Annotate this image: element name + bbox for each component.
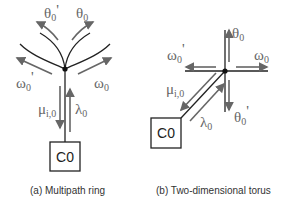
theta-label: θ0 [232, 25, 244, 43]
lambda-label: λ0 [200, 114, 212, 132]
ring-link-lower-right [65, 44, 110, 69]
omega-label: ω0 [254, 47, 269, 65]
ring-node [62, 66, 67, 71]
caption-two-dimensional-torus: (b) Two-dimensional torus [156, 185, 271, 196]
omega-label: ω0 [94, 75, 109, 93]
mu-label: μi,0 [166, 81, 184, 99]
torus-diagram: θ0 θ0' ω0' ω0 μi,0 λ0 C0 [151, 25, 269, 148]
omega-prime-label: ω0' [16, 69, 34, 93]
torus-node [222, 68, 227, 73]
mu-arrow [181, 73, 216, 110]
theta-label: θ0 [76, 5, 88, 23]
multipath-ring-diagram: θ0' θ0 ω0' ω0 μi,0 λ0 C0 [16, 2, 111, 171]
ring-link-lower-left [20, 44, 65, 69]
c0-label: C0 [157, 125, 175, 141]
theta-prime-label: θ0' [234, 103, 249, 127]
theta-prime-label: θ0' [44, 2, 59, 23]
torus-link-to-c0 [181, 71, 225, 118]
c0-label: C0 [56, 149, 74, 165]
caption-multipath-ring: (a) Multipath ring [30, 185, 105, 196]
omega-prime-label: ω0' [167, 41, 185, 65]
diagram-canvas: θ0' θ0 ω0' ω0 μi,0 λ0 C0 θ0 θ0' ω0' ω0 μ… [0, 0, 288, 205]
lambda-label: λ0 [75, 101, 87, 119]
mu-label: μi,0 [38, 101, 56, 119]
